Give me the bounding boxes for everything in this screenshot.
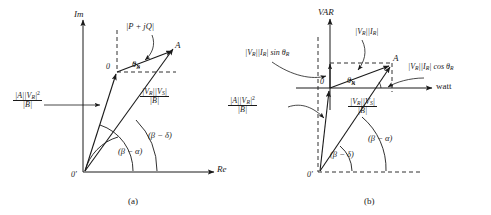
- panel-a-point-label-a: A: [175, 41, 181, 50]
- panel-b-angle-outer-label: (β − α): [368, 134, 392, 143]
- panel-b-origin-outer-label: 0': [307, 171, 313, 179]
- panel-a-offset-fraction-label: |A||VR|2 |B|: [13, 90, 42, 109]
- panel-b-point-label-a: A: [393, 54, 399, 63]
- panel-b-apparent-label: |VR||IR|: [355, 28, 378, 36]
- panel-b-theta-r-label: θR: [347, 76, 355, 86]
- panel-a-origin-outer-label: 0': [71, 171, 77, 179]
- panel-a-axis-label-re: Re: [217, 165, 227, 174]
- panel-b-real-label: |VR||IR| cos θR: [408, 63, 454, 71]
- panel-a-leader-resultant: [145, 35, 154, 60]
- panel-b-axis-label-var: VAR: [318, 8, 334, 17]
- panel-a-theta-r-label: θR: [132, 60, 140, 70]
- panel-b-origin-inner-label: 0: [320, 78, 324, 86]
- panel-b-reactive-label: |VR||IR| sin θR: [245, 49, 289, 57]
- panel-b-offset-fraction-label: |A||VR|2 |B|: [228, 95, 257, 114]
- panel-b-main-fraction-label: |VR||VS| |B|: [348, 98, 377, 116]
- panel-a-angle-inner-label: (β − α): [118, 147, 142, 156]
- panel-b-main-fraction-denominator: |B|: [348, 107, 377, 115]
- panel-a-main-fraction-denominator: |B|: [140, 97, 169, 105]
- panel-a-main-fraction-label: |VR||VS| |B|: [140, 88, 169, 106]
- panel-b-angle-inner-label: (β − δ): [330, 150, 354, 159]
- panel-a-origin-inner-label: 0: [106, 63, 110, 71]
- panel-a-caption: (a): [128, 196, 138, 206]
- panel-b-leader-offset: [288, 105, 324, 118]
- panel-a-resultant-label: |P + jQ|: [126, 22, 154, 31]
- panel-a-vector-offset: [85, 74, 116, 171]
- panel-b-offset-fraction-denominator: |B|: [228, 106, 257, 114]
- panel-b-caption: (b): [364, 196, 375, 206]
- panel-a-angle-outer-label: (β − δ): [148, 131, 172, 140]
- panel-a-axis-label-im: Im: [74, 10, 84, 19]
- panel-b-right-angle-tick: [379, 82, 381, 88]
- panel-b-axis-label-watt: watt: [436, 82, 452, 91]
- panel-a-offset-fraction-denominator: |B|: [13, 101, 42, 109]
- panel-b-leader-real: [388, 78, 424, 87]
- panel-b-leader-apparent: [358, 40, 365, 70]
- figure-canvas: Im Re 0' 0 A θR |P + jQ| (β − α) (β − δ)…: [0, 0, 491, 215]
- panel-b-arc-beta-minus-alpha: [362, 117, 386, 171]
